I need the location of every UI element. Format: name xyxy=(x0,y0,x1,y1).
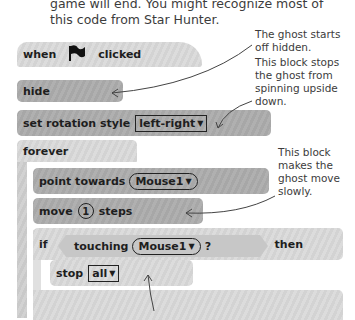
annotation-arrows xyxy=(0,0,355,311)
